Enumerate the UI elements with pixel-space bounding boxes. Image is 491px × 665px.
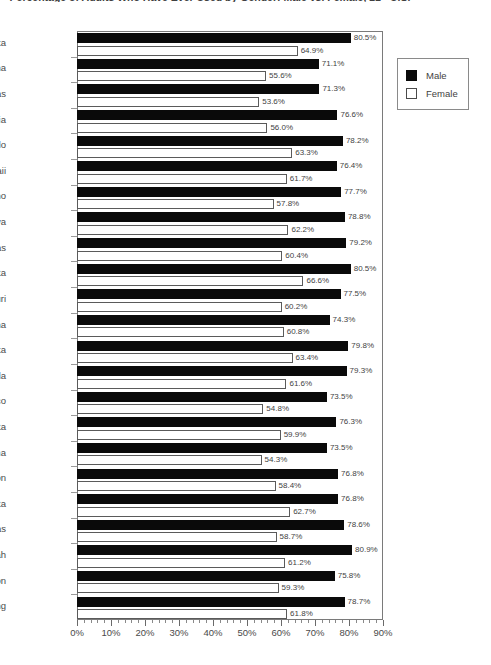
bar-value-label-male: 77.5% — [344, 289, 367, 299]
bar-female — [77, 174, 287, 184]
bar-value-label-male: 76.8% — [341, 494, 364, 504]
bar-male — [77, 289, 341, 299]
bar-value-label-female: 63.4% — [296, 353, 319, 363]
legend-swatch-female-icon — [406, 88, 417, 99]
bar-female — [77, 123, 267, 133]
x-axis-major-tick — [281, 620, 282, 626]
bar-male — [77, 161, 337, 171]
bar-value-label-female: 55.6% — [269, 71, 292, 81]
category-label: Idaho — [0, 190, 6, 201]
x-axis-minor-tick — [199, 620, 200, 623]
bar-value-label-female: 66.6% — [306, 276, 329, 286]
chart-title: Percentage of Adults Who Have Ever Used … — [0, 0, 420, 2]
x-axis-ticks — [77, 620, 383, 627]
bar-value-label-female: 54.8% — [266, 404, 289, 414]
bar-value-label-female: 56.0% — [270, 123, 293, 133]
x-axis-minor-tick — [125, 620, 126, 623]
bar-male — [77, 212, 345, 222]
bar-value-label-male: 76.4% — [340, 161, 363, 171]
category-label: North Dakota — [0, 421, 6, 432]
x-axis-minor-tick — [274, 620, 275, 623]
category-label: Oregon — [0, 472, 6, 483]
x-axis-minor-tick — [227, 620, 228, 623]
chart-legend: Male Female — [397, 58, 469, 110]
bar-female — [77, 430, 281, 440]
category-tick — [71, 57, 77, 58]
category-label: California — [0, 114, 6, 125]
legend-item-female[interactable]: Female — [406, 84, 460, 102]
bar-male — [77, 366, 347, 376]
category-tick — [71, 159, 77, 160]
x-axis-minor-tick — [356, 620, 357, 623]
category-tick — [71, 338, 77, 339]
category-tick — [71, 133, 77, 134]
x-axis-major-tick — [383, 620, 384, 626]
bar-female — [77, 353, 293, 363]
bar-value-label-female: 59.9% — [284, 430, 307, 440]
x-axis-major-tick — [77, 620, 78, 626]
x-axis-major-tick — [213, 620, 214, 626]
bar-female — [77, 46, 298, 56]
x-axis-minor-tick — [301, 620, 302, 623]
category-tick — [71, 569, 77, 570]
bar-male — [77, 84, 319, 94]
bar-value-label-male: 78.7% — [348, 597, 371, 607]
bar-male — [77, 187, 341, 197]
x-axis-tick-label: 90% — [363, 627, 403, 638]
x-axis-minor-tick — [369, 620, 370, 623]
bar-female — [77, 507, 290, 517]
bar-value-label-male: 80.5% — [354, 33, 377, 43]
bar-value-label-male: 77.7% — [344, 187, 367, 197]
legend-item-male[interactable]: Male — [406, 66, 460, 84]
bar-male — [77, 520, 344, 530]
x-axis-minor-tick — [363, 620, 364, 623]
bar-female — [77, 302, 282, 312]
bar-value-label-male: 71.1% — [322, 59, 345, 69]
category-label: Minnesota — [0, 267, 6, 278]
bar-male — [77, 494, 338, 504]
bar-male — [77, 545, 352, 555]
bar-value-label-male: 73.5% — [330, 392, 353, 402]
bar-female — [77, 276, 303, 286]
category-label: Texas — [0, 523, 6, 534]
x-axis-minor-tick — [308, 620, 309, 623]
bar-value-label-male: 76.3% — [339, 417, 362, 427]
bar-male — [77, 238, 346, 248]
bar-value-label-male: 76.6% — [340, 110, 363, 120]
x-axis-minor-tick — [165, 620, 166, 623]
category-label: Iowa — [0, 216, 6, 227]
x-axis-minor-tick — [186, 620, 187, 623]
bar-value-label-female: 57.8% — [277, 199, 300, 209]
x-axis-minor-tick — [329, 620, 330, 623]
bar-female — [77, 558, 285, 568]
bar-value-label-male: 75.8% — [338, 571, 361, 581]
x-axis-minor-tick — [118, 620, 119, 623]
bar-value-label-female: 60.4% — [285, 251, 308, 261]
category-tick — [71, 108, 77, 109]
category-tick — [71, 466, 77, 467]
bar-value-label-female: 62.2% — [291, 225, 314, 235]
bar-value-label-female: 63.3% — [295, 148, 318, 158]
x-axis-minor-tick — [240, 620, 241, 623]
category-tick — [71, 441, 77, 442]
x-axis-minor-tick — [376, 620, 377, 623]
x-axis-major-tick — [145, 620, 146, 626]
bar-male — [77, 392, 327, 402]
x-axis-minor-tick — [288, 620, 289, 623]
x-axis-minor-tick — [97, 620, 98, 623]
bar-value-label-female: 53.6% — [262, 97, 285, 107]
bar-value-label-male: 71.3% — [322, 84, 345, 94]
category-tick — [71, 518, 77, 519]
bar-female — [77, 404, 263, 414]
category-label: Kansas — [0, 242, 6, 253]
bar-value-label-female: 58.7% — [280, 532, 303, 542]
category-tick — [71, 415, 77, 416]
bar-value-label-male: 78.2% — [346, 136, 369, 146]
bar-female — [77, 379, 286, 389]
category-label: Utah — [0, 549, 6, 560]
bar-value-label-female: 64.9% — [301, 46, 324, 56]
bar-value-label-female: 62.7% — [293, 507, 316, 517]
bar-female — [77, 609, 287, 619]
x-axis-minor-tick — [91, 620, 92, 623]
x-axis-minor-tick — [233, 620, 234, 623]
